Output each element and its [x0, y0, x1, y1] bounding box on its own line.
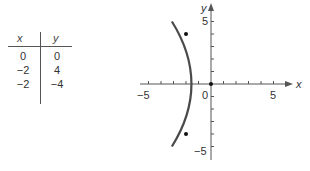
x-tick-label-origin: 0	[202, 89, 208, 101]
y-axis-label: y	[200, 2, 208, 14]
y-axis-arrow-icon	[208, 3, 214, 11]
x-axis-label: x	[295, 78, 302, 90]
x-tick-label-5: 5	[270, 89, 276, 101]
x-axis-arrow-icon	[285, 81, 293, 87]
y-tick-label-neg5: −5	[194, 145, 207, 157]
point-neg2-4	[184, 32, 188, 36]
point-neg2-neg4	[184, 132, 188, 136]
graph: −5 0 5 5 −5 x y	[0, 0, 310, 171]
y-tick-label-5: 5	[202, 15, 208, 27]
x-tick-label-neg5: −5	[137, 89, 150, 101]
point-origin	[209, 82, 213, 86]
